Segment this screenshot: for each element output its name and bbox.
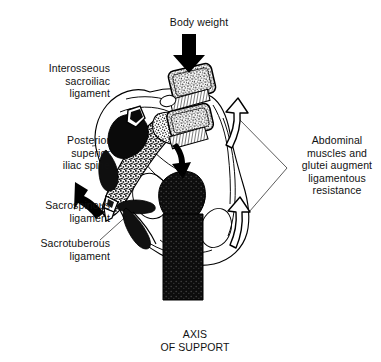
intervertebral-discs <box>159 89 210 149</box>
label-sacrospinous-ligament: Sacrospinous ligament <box>8 199 110 224</box>
leader-resistance-upper <box>240 120 287 168</box>
vertebra-L4 <box>167 62 217 101</box>
sacrotuberous-ligament <box>123 208 156 249</box>
femur <box>159 171 206 300</box>
ilium-inner-contours <box>112 97 236 256</box>
leader-resistance-lower <box>243 168 287 219</box>
sacral-ala <box>153 112 196 144</box>
label-interosseous-sacroiliac-ligament: Interosseous sacroiliac ligament <box>18 62 110 100</box>
label-sacrotuberous-ligament: Sacrotuberous ligament <box>8 237 110 262</box>
label-axis-of-support: AXIS OF SUPPORT <box>140 328 250 353</box>
body-weight-arrow <box>173 34 205 73</box>
label-abdominal-muscles-resistance: Abdominal muscles and glutei augment lig… <box>296 134 378 197</box>
vertebra-L5 <box>166 102 215 138</box>
sacrospinous-ligament <box>117 200 155 214</box>
innominate-bone-outline <box>95 89 249 266</box>
sacrum <box>102 114 184 217</box>
lower-resistance-arrow <box>228 197 250 248</box>
interosseous-sacroiliac-ligament <box>108 106 148 158</box>
sacral-nutation-arrow <box>172 143 191 179</box>
leader-interosseous <box>107 105 146 133</box>
leader-lines <box>92 105 287 240</box>
pelvis-ligament-figure: Interosseous sacroiliac ligament Posteri… <box>0 0 381 362</box>
label-posterior-superior-iliac-spine: Posterior superior iliac spine <box>18 134 110 172</box>
upper-resistance-arrow <box>226 98 248 148</box>
label-body-weight: Body weight <box>158 16 240 29</box>
